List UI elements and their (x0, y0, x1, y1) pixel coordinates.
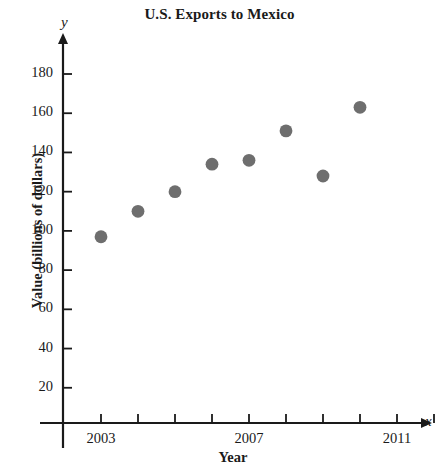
y-tick-label: 20 (0, 378, 53, 395)
x-tick-label: 2011 (357, 430, 437, 447)
ticks-group (63, 74, 434, 423)
data-point (317, 170, 330, 183)
x-axis-arrowhead (421, 418, 432, 428)
data-point (132, 205, 145, 218)
x-tick-label: 2003 (61, 430, 141, 447)
y-tick-label: 100 (0, 221, 53, 238)
y-tick-label: 80 (0, 260, 53, 277)
y-tick-label: 120 (0, 182, 53, 199)
plot-area (0, 0, 439, 468)
y-tick-label: 140 (0, 142, 53, 159)
data-points-group (95, 101, 367, 243)
chart-figure: U.S. Exports to Mexico y x Value (billio… (0, 0, 439, 468)
data-point (354, 101, 367, 114)
data-point (169, 185, 182, 198)
y-axis-arrowhead (58, 33, 68, 44)
data-point (95, 230, 108, 243)
y-tick-label: 180 (0, 64, 53, 81)
data-point (206, 158, 219, 171)
y-tick-label: 40 (0, 339, 53, 356)
data-point (280, 124, 293, 137)
y-tick-label: 60 (0, 299, 53, 316)
x-tick-label: 2007 (209, 430, 289, 447)
data-point (243, 154, 256, 167)
y-tick-label: 160 (0, 103, 53, 120)
